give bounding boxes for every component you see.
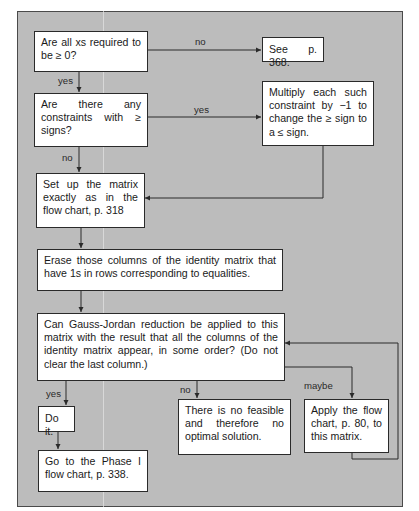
- node-no-feasible-solution: There is no feasible and therefore no op…: [178, 399, 291, 455]
- edge-label-gauss-no: no: [180, 384, 191, 395]
- edge-label-geq-no: no: [62, 152, 73, 163]
- node-setup-matrix: Set up the matrix exactly as in the flow…: [36, 173, 145, 228]
- node-phase-one: Go to the Phase I flow chart, p. 338.: [38, 450, 148, 492]
- node-do-it: Do it.: [38, 406, 75, 432]
- node-see-page-368: See p. 368.: [262, 37, 324, 62]
- node-erase-columns: Erase those columns of the identity matr…: [37, 249, 283, 291]
- edge-label-gauss-yes: yes: [46, 388, 61, 399]
- node-gauss-jordan-question: Can Gauss-Jordan reduction be applied to…: [37, 313, 285, 381]
- edge-label-nonneg-no: no: [195, 36, 206, 47]
- edge-label-nonneg-yes: yes: [58, 75, 73, 86]
- node-xs-nonnegative-question: Are all xs required to be ≥ 0?: [34, 31, 148, 72]
- node-geq-constraints-question: Are there any constraints with ≥ signs?: [34, 93, 148, 147]
- node-apply-flow-chart-80: Apply the flow chart, p. 80, to this mat…: [304, 399, 389, 453]
- node-multiply-constraint: Multiply each such constraint by −1 to c…: [262, 81, 374, 146]
- edge-label-gauss-maybe: maybe: [304, 380, 333, 391]
- edge-label-geq-yes: yes: [194, 104, 209, 115]
